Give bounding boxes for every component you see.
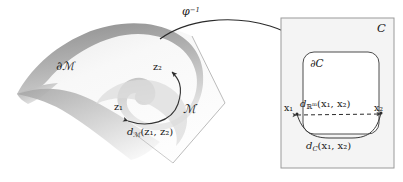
manifold-surface	[17, 23, 225, 163]
euclidean-args: (x₁, x₂)	[317, 98, 350, 109]
manifold-boundary-label: ∂ℳ	[56, 61, 74, 73]
geodesic-distance-label: dℳ(z₁, z₂)	[127, 127, 173, 138]
intrinsic-distance-label: dC(x₁, x₂)	[306, 141, 351, 152]
point-x1-label: x₁	[284, 103, 293, 113]
phi-symbol: φ	[182, 5, 190, 18]
intrinsic-args: (x₁, x₂)	[318, 140, 351, 151]
phi-exponent: −1	[190, 6, 200, 14]
point-z1-label: z₁	[114, 102, 123, 112]
point-x2-label: x₂	[374, 103, 383, 113]
chart-domain-label: C	[377, 23, 386, 35]
region-boundary-label: ∂C	[310, 58, 323, 69]
manifold-label: ℳ	[183, 103, 196, 115]
geodesic-args: (z₁, z₂)	[140, 126, 173, 137]
manifold-chart-figure: φ−1 ∂ℳ z₂ z₁ ℳ dℳ(z₁, z₂) C ∂C x₁ x₂ dℝm…	[0, 0, 403, 182]
figure-canvas	[0, 0, 403, 182]
euclidean-distance-label: dℝm(x₁, x₂)	[300, 99, 350, 110]
point-x1-dot	[296, 113, 299, 116]
phi-inverse-label: φ−1	[182, 6, 200, 17]
point-z2-label: z₂	[153, 62, 162, 72]
